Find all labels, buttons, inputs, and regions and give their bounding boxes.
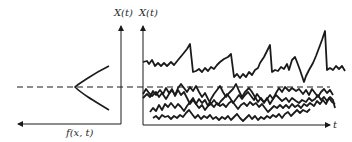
- density-axis-label: f(x, t): [66, 128, 94, 138]
- density-curve: [75, 66, 109, 110]
- sample-path-lower-4: [153, 109, 310, 121]
- stochastic-process-diagram: X(t) X(t) f(x, t) t: [0, 0, 352, 142]
- time-axis-label: t: [333, 120, 337, 130]
- diagram-canvas: [0, 0, 352, 142]
- sample-path-upper: [143, 31, 345, 82]
- density-panel-axis-label: X(t): [114, 8, 133, 18]
- sample-paths-axis-label: X(t): [139, 8, 158, 18]
